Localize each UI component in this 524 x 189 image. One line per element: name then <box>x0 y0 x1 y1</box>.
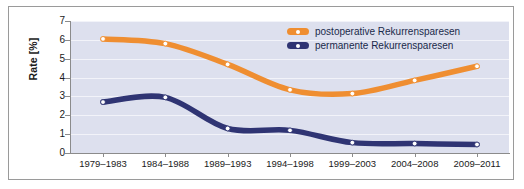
legend-label: postoperative Rekurrensparesen <box>315 27 460 37</box>
y-axis-tick-label: 2 <box>21 110 65 120</box>
x-axis-tick <box>477 153 478 157</box>
y-axis-tick <box>65 78 70 79</box>
data-point-marker <box>101 37 106 42</box>
x-axis-tick <box>103 153 104 157</box>
data-point-marker <box>288 128 293 133</box>
data-point-marker <box>475 142 480 147</box>
x-axis-tick-label: 1984–1988 <box>142 159 190 169</box>
x-axis-tick-label: 1994–1998 <box>266 159 314 169</box>
y-axis-tick-label: 1 <box>21 129 65 139</box>
x-axis-tick <box>415 153 416 157</box>
y-axis-tick-label: 6 <box>21 35 65 45</box>
x-axis-tick <box>352 153 353 157</box>
x-axis-tick-label: 2004–2008 <box>391 159 439 169</box>
data-point-marker <box>163 41 168 46</box>
data-point-marker <box>101 100 106 105</box>
x-axis-tick <box>165 153 166 157</box>
x-axis-tick-label: 2009–2011 <box>454 159 501 169</box>
legend-item[interactable]: permanente Rekurrensparesen <box>287 39 497 52</box>
y-axis-tick <box>65 153 70 154</box>
y-axis-tick <box>65 40 70 41</box>
y-axis-tick-label: 4 <box>21 73 65 83</box>
data-point-marker <box>475 64 480 69</box>
x-axis-tick-label: 1989–1993 <box>204 159 252 169</box>
y-axis-tick <box>65 134 70 135</box>
data-point-marker <box>225 126 230 131</box>
legend-label: permanente Rekurrensparesen <box>315 41 453 51</box>
data-point-marker <box>412 78 417 83</box>
legend-item[interactable]: postoperative Rekurrensparesen <box>287 25 497 38</box>
x-axis-tick-label: 1999–2003 <box>329 159 377 169</box>
data-point-marker <box>288 87 293 92</box>
y-axis-tick-label: 5 <box>21 54 65 64</box>
data-point-marker <box>350 140 355 145</box>
legend-color-swatch <box>287 28 309 35</box>
chart-card: Rate [%] 01234567 1979–19831984–19881989… <box>8 6 514 180</box>
y-axis-tick-label: 7 <box>21 16 65 26</box>
y-axis-tick <box>65 21 70 22</box>
data-point-marker <box>163 95 168 100</box>
x-axis-tick-label: 1979–1983 <box>79 159 127 169</box>
y-axis-tick-group: 01234567 <box>9 7 65 189</box>
series-2 <box>101 95 480 147</box>
y-axis-tick-label: 0 <box>21 148 65 158</box>
y-axis-tick-label: 3 <box>21 91 65 101</box>
series-line <box>103 96 477 144</box>
data-point-marker <box>350 91 355 96</box>
chart-legend: postoperative Rekurrensparesenpermanente… <box>287 25 497 53</box>
data-point-marker <box>225 62 230 67</box>
legend-color-swatch <box>287 42 309 49</box>
y-axis-tick <box>65 59 70 60</box>
x-axis-tick <box>290 153 291 157</box>
y-axis-tick <box>65 115 70 116</box>
data-point-marker <box>412 141 417 146</box>
x-axis-tick <box>228 153 229 157</box>
y-axis-tick <box>65 96 70 97</box>
